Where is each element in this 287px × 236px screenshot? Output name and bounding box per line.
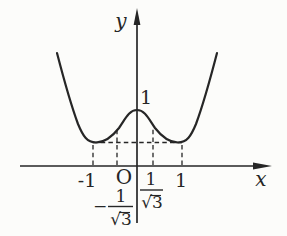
peak-value-label: 1 bbox=[140, 86, 152, 108]
frac-pos-numerator: 1 bbox=[146, 169, 157, 189]
function-graph-figure: y x O 1 -1 1 1 √3 − 1 √3 bbox=[0, 0, 287, 236]
plot-canvas: y x O 1 -1 1 1 √3 − 1 √3 bbox=[0, 0, 287, 236]
x-axis-label: x bbox=[255, 167, 266, 191]
y-axis-arrow-icon bbox=[134, 8, 141, 25]
frac-neg-minus-sign: − bbox=[93, 196, 107, 216]
tick-label-pos1: 1 bbox=[175, 169, 187, 191]
frac-neg-numerator: 1 bbox=[116, 186, 127, 206]
tick-label-neg1: -1 bbox=[78, 169, 97, 191]
y-axis-label: y bbox=[114, 9, 127, 33]
